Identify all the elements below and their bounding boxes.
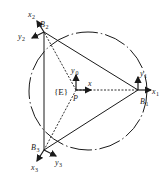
- svg-text:B: B: [31, 143, 36, 152]
- point-p-label: P: [72, 94, 78, 103]
- svg-text:3: 3: [37, 147, 40, 153]
- svg-text:B: B: [140, 97, 145, 106]
- svg-text:3: 3: [59, 162, 62, 168]
- svg-text:2: 2: [32, 14, 35, 20]
- b3-y-axis: [44, 150, 56, 156]
- joint-b3-label: B 3: [31, 143, 40, 153]
- svg-text:1: 1: [144, 73, 147, 79]
- svg-text:B: B: [40, 20, 45, 29]
- dashed-p-b2: [44, 32, 76, 90]
- p-y-label: y 0: [70, 66, 79, 76]
- link-b3-b1: [44, 90, 138, 150]
- svg-text:2: 2: [46, 24, 49, 30]
- frame-label: {E}: [54, 87, 68, 97]
- joint-b2-label: B 2: [40, 20, 49, 30]
- svg-text:1: 1: [146, 101, 149, 107]
- b1-x-label: x 1: [151, 87, 159, 97]
- joint-b1-label: B 1: [140, 97, 149, 107]
- b2-x-label: x 2: [27, 10, 35, 20]
- p-x-label: x: [87, 79, 92, 88]
- svg-text:2: 2: [22, 36, 25, 42]
- svg-text:y: y: [70, 66, 75, 75]
- mechanism-diagram: {E} P x y 0 B 1 x 1 y 1 B 2 x 2 y 2 B 3 …: [0, 0, 164, 181]
- svg-text:1: 1: [156, 91, 159, 97]
- b3-y-label: y 3: [54, 158, 62, 168]
- b2-y-axis: [32, 32, 44, 38]
- base-circle: [29, 32, 147, 150]
- dashed-p-b3: [44, 90, 76, 150]
- b1-y-label: y 1: [139, 69, 147, 79]
- svg-text:0: 0: [76, 70, 79, 76]
- b2-y-label: y 2: [17, 32, 25, 42]
- b3-x-label: x 3: [30, 163, 38, 173]
- svg-text:3: 3: [35, 167, 38, 173]
